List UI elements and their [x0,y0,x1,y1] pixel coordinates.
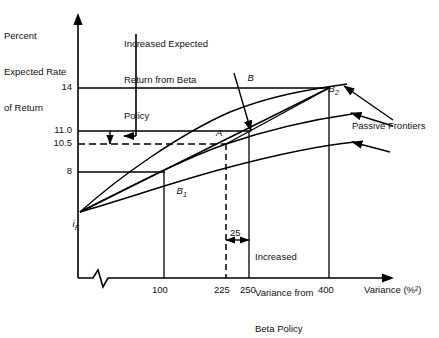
annotation-increased-variance-line3: Beta Policy [255,323,313,335]
annotation-delta-variance-value: 25 [230,227,241,239]
x-tick-100: 100 [152,284,168,296]
annotation-increased-expected-return: Increased Expected Return from Beta Poli… [124,14,208,146]
x-tick-400: 400 [318,284,334,296]
y-axis-arrowhead [73,13,82,25]
y-axis-title-line2: Expected Rate [4,66,66,78]
x-tick-225: 225 [214,284,230,296]
annotation-passive-frontiers: Passive Frontiers [352,120,425,132]
x-axis [78,270,394,287]
annotation-increased-return-line3: Policy [124,110,208,122]
y-axis-title-line1: Percent [4,30,66,42]
x-tick-250: 250 [240,284,256,296]
pointer-passive-frontier-top [344,86,393,120]
y-tick-11: 11.0 [20,124,72,136]
annotation-increased-variance-line1: Increased [255,251,313,263]
curve-lower-passive-frontier [80,142,355,212]
origin-label-sub: F [75,224,79,231]
point-label-B1: B1 [166,173,187,213]
origin-label-if: iF [62,206,79,246]
y-tick-10-5: 10.5 [20,137,72,149]
annotation-increased-return-line1: Increased Expected [124,38,208,50]
annotation-increased-return-line2: Return from Beta [124,74,208,86]
point-label-B: B [237,60,254,96]
point-label-B2-sub: 2 [335,89,339,96]
y-axis-title-line3: of Return [4,102,66,114]
y-axis-title: Percent Expected Rate of Return [4,6,66,138]
point-label-B-text: B [248,72,254,83]
point-label-B1-sub: 1 [183,191,187,198]
y-tick-8: 8 [26,165,72,177]
pointer-passive-frontier-low [352,142,390,152]
y-tick-14: 14 [26,81,72,93]
x-axis-arrowhead [382,273,394,282]
annotation-increased-variance-line2: Variance from [255,287,313,299]
point-label-A: A [216,127,222,139]
point-label-B2: B2 [318,71,339,111]
x-axis-title: Variance (%²) [364,284,421,296]
annotation-increased-variance: Increased Variance from Beta Policy [255,227,313,338]
